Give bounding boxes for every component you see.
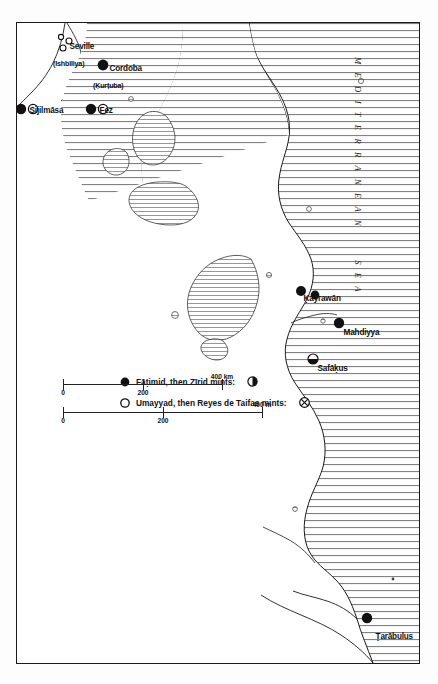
scale-m-label-0: 0	[61, 417, 65, 424]
island-sicily	[187, 255, 259, 340]
city-label-seville: Seville (Ishbīliya)	[53, 35, 94, 83]
island-kerkennah	[321, 319, 325, 323]
city-label-tarabulus: Ṭarābulus	[359, 625, 413, 650]
city-label-cordoba: Cordoba (Ḳurṭuba)	[93, 57, 142, 105]
scale-bars: 0 200 400 km 0 200 400 m	[63, 375, 263, 431]
island-pantelleria	[266, 272, 271, 277]
scale-km-label-200: 200	[137, 389, 148, 396]
island-balearics-minor	[103, 149, 129, 176]
island-djerba	[293, 507, 298, 512]
scale-m-tick-400	[262, 407, 263, 418]
scale-km-unit: 400 km	[211, 373, 233, 380]
mediterranean-sea-label: M E D I T E R R A N E A N S E A	[353, 57, 363, 295]
crossed-circle-icon	[298, 396, 311, 409]
map-speck-a	[392, 578, 395, 581]
island-corsica	[201, 339, 228, 360]
map-frame: M E D I T E R R A N E A N S E A Ṭarābulu…	[16, 22, 420, 664]
scale-km-label-0: 0	[61, 389, 65, 396]
scale-m-label-200: 200	[157, 417, 168, 424]
island-sardinia	[129, 182, 199, 225]
scale-km-tick-400	[222, 379, 223, 390]
mint-marker-tarabulus[interactable]	[362, 613, 372, 623]
map-rotation-stage: M E D I T E R R A N E A N S E A Ṭarābulu…	[0, 0, 438, 684]
scale-bar-miles: 0 200 400 m	[63, 403, 263, 425]
island-balearics-major	[132, 111, 175, 165]
city-label-kayrawan: Ḳayrawān	[287, 287, 341, 312]
city-label-sijilmasa: Sijilmāsa	[16, 99, 63, 124]
island-malta	[172, 312, 179, 319]
scale-m-unit: 400 m	[253, 401, 272, 408]
figure-page: M E D I T E R R A N E A N S E A Ṭarābulu…	[0, 0, 438, 684]
scale-bar-km: 0 200 400 km	[63, 375, 223, 397]
city-label-mahdiyya: Mahdiyya	[327, 321, 379, 346]
